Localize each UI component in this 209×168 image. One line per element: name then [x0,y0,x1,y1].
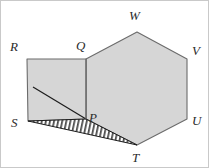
vertex-label-w: W [129,9,140,22]
vertex-label-q: Q [76,39,85,52]
geometry-canvas [1,1,209,168]
vertex-label-p: P [89,111,97,124]
vertex-label-u: U [192,114,201,127]
vertex-label-s: S [11,116,18,129]
vertex-label-r: R [10,40,18,53]
geometry-figure: R Q W V P U S T [0,0,209,168]
vertex-label-v: V [192,44,200,57]
square-pqrs [27,59,86,121]
vertex-label-t: T [132,151,139,164]
